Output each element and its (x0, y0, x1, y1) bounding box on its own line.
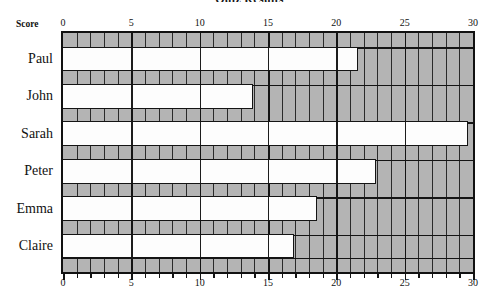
x-tick-label-25: 25 (400, 277, 410, 288)
bar-gridline (268, 235, 269, 258)
x-tick-label-10: 10 (195, 277, 205, 288)
x-tick-label-20: 20 (331, 17, 341, 28)
category-label-paul: Paul (28, 52, 53, 66)
bar-gridline (131, 197, 132, 220)
x-tick-label-20: 20 (331, 277, 341, 288)
bar-gridline (336, 160, 337, 183)
bar-claire (63, 234, 294, 259)
bar-gridline (268, 122, 269, 145)
gridline-minor (459, 33, 460, 272)
bar-gridline (131, 85, 132, 108)
bar-gridline (200, 235, 201, 258)
bar-gridline (131, 48, 132, 71)
bar-gridline (200, 122, 201, 145)
bar-gridline (200, 48, 201, 71)
gridline-minor (418, 33, 419, 272)
x-axis-caption: Score (16, 19, 39, 29)
bar-gridline (200, 85, 201, 108)
gridline-minor (377, 33, 378, 272)
gridline-minor (391, 33, 392, 272)
gridline-minor (446, 33, 447, 272)
bar-peter (63, 159, 376, 184)
category-label-emma: Emma (16, 202, 53, 216)
x-tick-label-0: 0 (61, 17, 66, 28)
bar-emma (63, 196, 317, 221)
gridline-major (405, 33, 407, 272)
bar-john (63, 84, 253, 109)
category-label-claire: Claire (19, 239, 53, 253)
bar-gridline (131, 122, 132, 145)
bar-gridline (268, 48, 269, 71)
x-tick-label-10: 10 (195, 17, 205, 28)
plot-inner (63, 33, 473, 272)
bar-gridline (200, 197, 201, 220)
x-tick-label-30: 30 (468, 277, 478, 288)
bar-gridline (336, 122, 337, 145)
bar-gridline (336, 48, 337, 71)
bar-gridline (268, 160, 269, 183)
bar-chart: Quiz Results Score 051015202530 PaulJohn… (0, 0, 499, 300)
bar-paul (63, 47, 358, 72)
category-label-peter: Peter (24, 164, 53, 178)
x-tick-label-15: 15 (263, 17, 273, 28)
plot-area (61, 31, 475, 274)
bar-gridline (405, 122, 406, 145)
gridline-minor (364, 33, 365, 272)
x-axis-ticks-top: 051015202530 (61, 17, 475, 30)
band-separator (63, 258, 473, 260)
x-tick-label-5: 5 (129, 17, 134, 28)
x-tick-label-30: 30 (468, 17, 478, 28)
category-labels: PaulJohnSarahPeterEmmaClaire (0, 31, 58, 274)
category-label-sarah: Sarah (21, 127, 53, 141)
x-tick-label-15: 15 (263, 277, 273, 288)
bar-sarah (63, 121, 468, 146)
chart-title: Quiz Results (0, 0, 499, 2)
gridline-minor (432, 33, 433, 272)
bar-gridline (131, 235, 132, 258)
x-tick-label-25: 25 (400, 17, 410, 28)
category-label-john: John (27, 89, 53, 103)
bar-gridline (200, 160, 201, 183)
bar-gridline (268, 197, 269, 220)
x-tick-label-5: 5 (129, 277, 134, 288)
x-axis-ticks-bottom: 051015202530 (61, 277, 475, 291)
x-tick-label-0: 0 (61, 277, 66, 288)
bar-gridline (131, 160, 132, 183)
